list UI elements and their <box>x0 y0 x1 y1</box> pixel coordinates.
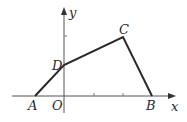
origin-label: O <box>52 98 63 113</box>
point-label-C: C <box>119 22 129 37</box>
diagram-svg: y x O A D C B <box>0 0 187 122</box>
x-axis-label: x <box>171 99 179 114</box>
y-axis-label: y <box>68 5 77 20</box>
y-axis-arrow-icon <box>61 7 67 15</box>
point-label-B: B <box>145 98 156 113</box>
point-label-D: D <box>51 58 63 73</box>
coordinate-diagram: y x O A D C B <box>0 0 187 122</box>
point-label-A: A <box>27 98 37 113</box>
